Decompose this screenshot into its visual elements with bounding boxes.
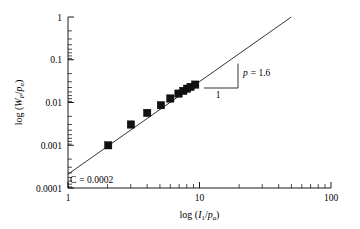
y-tick-label: 1	[57, 13, 62, 23]
y-axis-title: log (WP/pa)	[13, 80, 25, 126]
x-tick-label: 1	[66, 193, 71, 203]
slope-annotation: p= 1.6	[242, 68, 271, 78]
data-point-marker	[105, 142, 112, 149]
y-title-suffix: )	[13, 80, 25, 83]
x-tick-label: 100	[324, 193, 339, 203]
slope-value: = 1.6	[251, 68, 271, 78]
data-point-marker	[192, 81, 199, 88]
intercept-symbol: C	[70, 175, 76, 185]
x-title-suffix: )	[216, 209, 219, 221]
y-tick-label: 0.01	[45, 98, 62, 108]
run-annotation: 1	[216, 90, 221, 100]
x-title-prefix: log (	[180, 209, 199, 221]
power-law-loglog-plot: 1 0.1 0.01 0.001 0.0001 1 10 100	[0, 0, 360, 229]
data-point-marker	[127, 121, 134, 128]
y-tick-label: 0.1	[50, 55, 62, 65]
plot-background	[0, 0, 360, 229]
y-tick-label: 0.0001	[36, 184, 62, 194]
slope-symbol: p	[242, 68, 248, 78]
intercept-value: = 0.0002	[79, 175, 113, 185]
data-point-marker	[167, 95, 174, 102]
y-tick-label: 0.001	[41, 141, 63, 151]
y-title-prefix: log (	[13, 106, 25, 125]
data-point-marker	[144, 109, 151, 116]
x-tick-label: 10	[195, 193, 205, 203]
chart-figure: 1 0.1 0.01 0.001 0.0001 1 10 100	[0, 0, 360, 229]
data-point-marker	[157, 102, 164, 109]
